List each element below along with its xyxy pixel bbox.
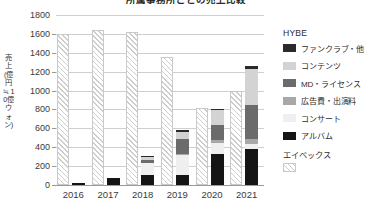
legend-swatch — [283, 114, 296, 122]
bar-segment — [107, 178, 120, 185]
legend-swatch — [283, 79, 296, 87]
bar-group — [126, 15, 160, 185]
bar-segment — [245, 105, 258, 139]
legend-swatch — [283, 132, 296, 140]
legend: HYBE ファンクラブ・他コンテンツMD・ライセンス広告費・出演料コンサートアル… — [283, 28, 372, 172]
bar-segment — [176, 139, 189, 153]
bar-avex — [57, 34, 69, 185]
legend-label: 広告費・出演料 — [301, 95, 356, 106]
y-tick-label: 600 — [16, 124, 50, 133]
y-tick-label: 1800 — [16, 11, 50, 20]
bar-hybe-stacked — [211, 109, 224, 186]
bar-segment — [176, 175, 189, 185]
y-tick-label: 400 — [16, 143, 50, 152]
bar-group — [196, 15, 230, 185]
legend-swatch — [283, 97, 296, 105]
legend-items-hybe: ファンクラブ・他コンテンツMD・ライセンス広告費・出演料コンサートアルバム — [283, 42, 372, 142]
bar-group — [92, 15, 126, 185]
bar-avex — [230, 91, 242, 185]
bar-segment — [141, 175, 154, 185]
legend-label: MD・ライセンス — [301, 78, 361, 89]
bar-hybe-stacked — [176, 130, 189, 185]
bar-hybe-stacked — [245, 66, 258, 185]
legend-item: コンテンツ — [283, 60, 372, 72]
bar-segment — [211, 125, 224, 139]
bar-segment — [211, 143, 224, 154]
bar-segment — [176, 155, 189, 174]
y-tick-label: 1600 — [16, 30, 50, 39]
bar-segment — [211, 110, 224, 125]
chart-root: 所属事務所ごとの売上比較 売上(億円 ≒ 10億ウォン) 02004006008… — [0, 0, 372, 212]
bar-hybe-stacked — [72, 183, 85, 185]
y-tick-label: 800 — [16, 105, 50, 114]
bar-segment — [176, 132, 189, 139]
legend-label: アルバム — [301, 130, 333, 141]
y-tick-label: 200 — [16, 162, 50, 171]
legend-swatch — [283, 44, 296, 52]
legend-item: MD・ライセンス — [283, 77, 372, 89]
y-axis-label: 売上(億円 ≒ 10億ウォン) — [2, 54, 15, 130]
bar-hybe-stacked — [141, 156, 154, 185]
legend-swatch-avex — [283, 163, 296, 172]
bar-segment — [245, 149, 258, 185]
bar-group — [57, 15, 91, 185]
plot-area — [56, 15, 264, 185]
chart-title: 所属事務所ごとの売上比較 — [0, 0, 372, 4]
gridline — [56, 185, 264, 186]
y-tick-label: 0 — [16, 181, 50, 190]
legend-item: 広告費・出演料 — [283, 95, 372, 107]
bar-avex — [161, 57, 173, 185]
bar-group — [230, 15, 264, 185]
bar-segment — [245, 69, 258, 106]
legend-label: コンサート — [301, 113, 341, 124]
legend-swatch — [283, 62, 296, 70]
x-tick-label: 2021 — [227, 189, 267, 200]
legend-group1-title: HYBE — [283, 28, 372, 38]
bar-avex — [92, 30, 104, 185]
bar-segment — [211, 154, 224, 185]
bar-avex — [126, 32, 138, 185]
bar-avex — [196, 108, 208, 185]
legend-label: コンテンツ — [301, 60, 341, 71]
legend-group2-title: エイベックス — [283, 148, 372, 160]
legend-label: ファンクラブ・他 — [301, 43, 364, 54]
bar-segment — [141, 163, 154, 175]
y-tick-label: 1000 — [16, 87, 50, 96]
legend-item: コンサート — [283, 112, 372, 124]
bar-hybe-stacked — [107, 178, 120, 185]
legend-item: ファンクラブ・他 — [283, 42, 372, 54]
y-tick-label: 1200 — [16, 68, 50, 77]
bar-segment — [72, 183, 85, 185]
bar-group — [161, 15, 195, 185]
y-tick-label: 1400 — [16, 49, 50, 58]
legend-item: アルバム — [283, 130, 372, 142]
